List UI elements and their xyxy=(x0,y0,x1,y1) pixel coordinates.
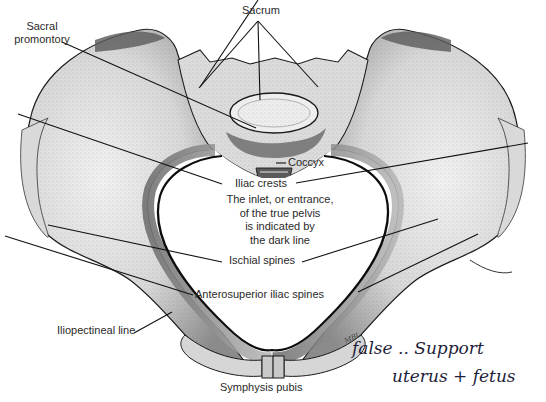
inlet-caption: The inlet, or entrance, of the true pelv… xyxy=(205,193,355,247)
label-sacrum: Sacrum xyxy=(242,4,280,17)
label-iliac-crests: Iliac crests xyxy=(235,177,287,190)
caption-line-2: of the true pelvis xyxy=(205,207,355,221)
label-anterosuperior-iliac-spines: Anterosuperior iliac spines xyxy=(195,288,324,301)
caption-line-1: The inlet, or entrance, xyxy=(205,193,355,207)
handwritten-note-line1: false .. Support xyxy=(352,338,484,358)
handwritten-note-line2: uterus + fetus xyxy=(392,366,516,386)
caption-line-4: the dark line xyxy=(205,234,355,248)
label-ischial-spines: Ischial spines xyxy=(229,254,295,267)
label-sacral-promontory: Sacral promontory xyxy=(10,20,74,46)
caption-line-3: is indicated by xyxy=(205,220,355,234)
label-iliopectineal-line: Iliopectineal line xyxy=(57,324,135,337)
label-symphysis-pubis: Symphysis pubis xyxy=(220,381,303,394)
label-sacral-promontory-line1: Sacral xyxy=(10,20,74,33)
label-sacral-promontory-line2: promontory xyxy=(10,33,74,46)
label-coccyx: Coccyx xyxy=(288,156,324,169)
